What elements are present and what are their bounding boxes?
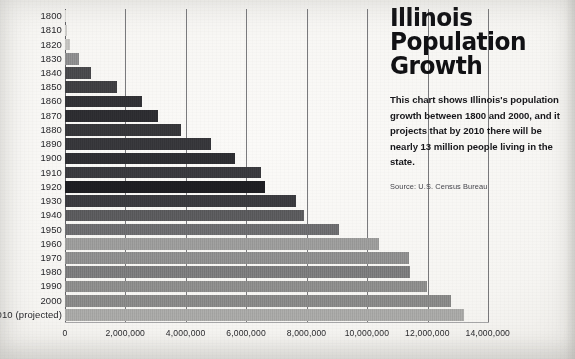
bar-1940 [65,210,304,222]
y-tick-label-1890: 1890 [40,139,62,149]
bar-1900 [65,153,235,165]
bar-texture [65,124,181,136]
bar-1850 [65,81,117,93]
bar-1820 [65,39,70,51]
bar-texture [65,53,79,65]
bar-1830 [65,53,79,65]
bar-texture [65,67,91,79]
bar-texture [65,281,427,293]
bar-1990 [65,281,427,293]
bar-1980 [65,266,410,278]
bar-1840 [65,67,91,79]
bar-texture [65,195,296,207]
y-tick-label-1960: 1960 [40,239,62,249]
headline-block: Illinois Population Growth This chart sh… [388,6,571,191]
x-tick-label-0: 0 [63,329,68,338]
bar-1920 [65,181,265,193]
page-title: Illinois Population Growth [390,6,558,78]
y-tick-label-1860: 1860 [40,96,62,106]
bar-texture [65,295,451,307]
y-tick-label-1920: 1920 [40,182,62,192]
bar-texture [65,238,379,250]
x-axis-baseline [65,322,489,323]
y-tick-label-1940: 1940 [40,210,62,220]
bar-texture [65,252,409,264]
y-tick-label-1800: 1800 [40,11,62,21]
bar-texture [65,25,67,37]
x-tick-label-4000000: 4,000,000 [166,329,206,338]
x-tick-label-6000000: 6,000,000 [226,329,266,338]
bar-texture [65,81,117,93]
y-tick-label-1870: 1870 [40,111,62,121]
bar-texture [65,167,261,179]
bar-1970 [65,252,409,264]
bar-1890 [65,138,211,150]
y-tick-label-1850: 1850 [40,82,62,92]
title-line-3: Growth [390,54,558,78]
y-tick-label-1810: 1810 [40,25,62,35]
bar-1860 [65,96,142,108]
bar-texture [65,96,142,108]
bar-1880 [65,124,181,136]
y-tick-label-1820: 1820 [40,40,62,50]
y-tick-label-1990: 1990 [40,281,62,291]
bar-texture [65,110,158,122]
bar-texture [65,153,235,165]
x-tick-label-14000000: 14,000,000 [466,329,511,338]
bar-1930 [65,195,296,207]
bar-texture [65,10,66,22]
bar-texture [65,224,339,236]
y-tick-label-1830: 1830 [40,54,62,64]
bar-1950 [65,224,339,236]
bar-texture [65,210,304,222]
y-tick-label-1930: 1930 [40,196,62,206]
bar-1800 [65,10,66,22]
y-tick-label-1970: 1970 [40,253,62,263]
paper-background: 1800181018201830184018501860187018801890… [0,0,575,359]
chart-description: This chart shows Illinois's population g… [390,92,566,170]
y-tick-label-1910: 1910 [40,168,62,178]
bar-texture [65,181,265,193]
y-tick-label-1950: 1950 [40,225,62,235]
bar-texture [65,309,464,321]
x-tick-label-8000000: 8,000,000 [287,329,327,338]
bar-1810 [65,25,67,37]
bar-2010-projected- [65,309,464,321]
y-tick-label-1840: 1840 [40,68,62,78]
bar-1870 [65,110,158,122]
y-tick-label-1980: 1980 [40,267,62,277]
x-tick-label-12000000: 12,000,000 [405,329,450,338]
y-tick-label-2000: 2000 [40,296,62,306]
source-credit: Source: U.S. Census Bureau [390,182,571,191]
bar-2000 [65,295,451,307]
x-tick-label-10000000: 10,000,000 [345,329,390,338]
bar-texture [65,138,211,150]
bar-texture [65,39,70,51]
x-tick-label-2000000: 2,000,000 [105,329,145,338]
bar-texture [65,266,410,278]
y-tick-label-2010-projected-: 2010 (projected) [0,310,62,320]
bar-1960 [65,238,379,250]
y-tick-label-1900: 1900 [40,153,62,163]
bar-1910 [65,167,261,179]
y-tick-label-1880: 1880 [40,125,62,135]
